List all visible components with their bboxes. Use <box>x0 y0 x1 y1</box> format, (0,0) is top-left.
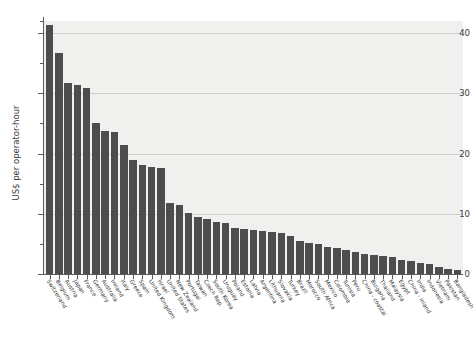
x-label-slot: Uruguay <box>222 279 229 337</box>
y-tick-minor <box>40 63 44 64</box>
x-label-slot: China - coastal <box>361 279 368 337</box>
x-label-slot: Germany <box>92 279 99 337</box>
bar <box>278 233 285 274</box>
bar <box>407 261 414 274</box>
x-label-slot: Portugal <box>185 279 192 337</box>
bar <box>342 250 349 274</box>
bar <box>315 244 322 274</box>
bar <box>222 223 229 274</box>
x-label-slot: New Zealand <box>176 279 183 337</box>
x-label-slot: United Kingdom <box>148 279 155 337</box>
y-tick-mark <box>38 154 44 155</box>
bar <box>231 228 238 274</box>
x-label-slot: Belgium <box>55 279 62 337</box>
bar <box>157 168 164 274</box>
x-label-slot: Slovakia <box>278 279 285 337</box>
x-label-slot: Italy <box>120 279 127 337</box>
y-tick-mark <box>38 214 44 215</box>
bar <box>101 131 108 274</box>
bar <box>64 83 71 274</box>
x-label-slot: Egypt <box>398 279 405 337</box>
y-tick-label: 40 <box>436 28 470 38</box>
x-label-slot: Bulgaria <box>370 279 377 337</box>
bar <box>74 85 81 274</box>
x-label-slot: France <box>83 279 90 337</box>
x-label-slot: South Korea <box>213 279 220 337</box>
x-label-slot: Japan <box>74 279 81 337</box>
y-tick-mark <box>38 93 44 94</box>
bar <box>166 203 173 274</box>
bar-series <box>44 21 463 274</box>
bar <box>287 236 294 274</box>
bar <box>194 217 201 274</box>
bar <box>213 222 220 274</box>
x-label-slot: Turkey <box>287 279 294 337</box>
x-label-slot: Taiwan <box>194 279 201 337</box>
x-label-slot: Thailand <box>379 279 386 337</box>
x-label-slot: Lithuania <box>268 279 275 337</box>
x-label-slot: Tunisia <box>342 279 349 337</box>
x-label-slot: United States <box>166 279 173 337</box>
bar <box>46 25 53 274</box>
x-label-slot: China - inland <box>407 279 414 337</box>
plot-area <box>44 21 463 274</box>
y-tick-label: 20 <box>436 149 470 159</box>
bar <box>259 231 266 274</box>
bar <box>352 252 359 274</box>
bar <box>389 257 396 274</box>
x-label-slot: Austria <box>64 279 71 337</box>
x-label-slot: Argentina <box>259 279 266 337</box>
x-label-slot: Poland <box>231 279 238 337</box>
x-label-slot: South Africa <box>315 279 322 337</box>
x-label-slot: India <box>417 279 424 337</box>
bar <box>148 167 155 274</box>
x-label-slot: Ireland <box>111 279 118 337</box>
x-label-slot: Colombia <box>333 279 340 337</box>
x-label-slot: Indonesia <box>426 279 433 337</box>
y-tick-label: 10 <box>436 209 470 219</box>
bar <box>139 165 146 274</box>
x-label-slot: Morocco <box>305 279 312 337</box>
x-label-slot: Estonia <box>240 279 247 337</box>
bar <box>240 229 247 274</box>
bar <box>185 213 192 274</box>
bar <box>120 145 127 275</box>
bar <box>55 53 62 274</box>
x-label-slot: Switzerland <box>46 279 53 337</box>
bar <box>203 219 210 274</box>
y-axis-label: US$ per operator-hour <box>11 73 21 233</box>
y-tick-minor <box>40 123 44 124</box>
x-label-slot: Greece <box>129 279 136 337</box>
x-label-slot: Malaysia <box>389 279 396 337</box>
y-tick-minor <box>40 184 44 185</box>
bar <box>370 255 377 274</box>
x-label-slot: Pakistan <box>444 279 451 337</box>
bar <box>417 263 424 274</box>
x-label-slot: Peru <box>352 279 359 337</box>
y-tick-minor <box>40 244 44 245</box>
bar <box>250 230 257 274</box>
bar <box>296 241 303 274</box>
bar <box>92 123 99 274</box>
bar <box>361 254 368 274</box>
bar <box>398 260 405 274</box>
bar <box>379 256 386 274</box>
x-label-slot: Australia <box>101 279 108 337</box>
x-label-slot: Mexico <box>324 279 331 337</box>
x-tick-label: Bangladesh <box>453 279 475 310</box>
bar <box>333 248 340 274</box>
bar <box>305 243 312 274</box>
y-axis-line <box>43 17 44 275</box>
x-label-slot: Czech Rep. <box>203 279 210 337</box>
x-label-slot: Brazil <box>296 279 303 337</box>
bar <box>176 205 183 274</box>
x-axis-labels: SwitzerlandBelgiumAustriaJapanFranceGerm… <box>44 279 463 337</box>
x-label-slot: Vietnam <box>435 279 442 337</box>
y-tick-mark <box>38 33 44 34</box>
bar <box>324 247 331 274</box>
x-label-slot: Spain <box>139 279 146 337</box>
x-label-slot: Latvia <box>250 279 257 337</box>
x-label-slot: Bangladesh <box>454 279 461 337</box>
y-tick-minor <box>40 21 44 22</box>
